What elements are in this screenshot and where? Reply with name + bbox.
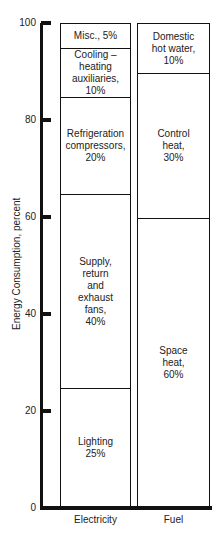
y-tick-label-60: 60 <box>4 211 36 223</box>
x-label-fuel: Fuel <box>137 514 210 526</box>
y-tick-label-0: 0 <box>4 502 36 514</box>
y-tick-100 <box>41 21 51 25</box>
segment-label: Space <box>159 345 187 357</box>
segment-label: Refrigeration <box>67 128 124 140</box>
y-tick-label-40: 40 <box>4 308 36 320</box>
segment-label: return <box>82 268 108 280</box>
segment-label: 40% <box>85 316 105 328</box>
y-tick-label-80: 80 <box>4 114 36 126</box>
segment-label: exhaust <box>78 292 113 304</box>
segment-label: heat, <box>162 357 184 369</box>
y-axis-line <box>40 23 43 510</box>
segment-label: Lighting <box>78 436 113 448</box>
y-tick-label-20: 20 <box>4 405 36 417</box>
segment-label: Cooling – <box>74 49 116 61</box>
y-tick-40 <box>41 312 51 316</box>
segment-refrigeration-compressors: Refrigeration compressors, 20% <box>61 97 130 194</box>
segment-label: auxiliaries, 10% <box>63 73 128 97</box>
segment-space-heat: Space heat, 60% <box>138 218 209 507</box>
y-tick-20 <box>41 409 51 413</box>
segment-misc: Misc., 5% <box>61 24 130 48</box>
segment-label: Domestic <box>153 31 195 43</box>
segment-label: 25% <box>85 448 105 460</box>
segment-label: 10% <box>163 55 183 67</box>
segment-label: Supply, <box>79 256 112 268</box>
segment-control-heat: Control heat, 30% <box>138 73 209 218</box>
electricity-column: Misc., 5% Cooling – heating auxiliaries,… <box>60 23 131 509</box>
y-tick-label-100: 100 <box>4 17 36 29</box>
segment-label: 30% <box>163 152 183 164</box>
y-tick-80 <box>41 118 51 122</box>
segment-label: and <box>87 280 104 292</box>
segment-label: compressors, <box>65 140 125 152</box>
x-label-electricity: Electricity <box>60 514 131 526</box>
segment-label: fans, <box>85 304 107 316</box>
fuel-column: Domestic hot water, 10% Control heat, 30… <box>137 23 210 509</box>
segment-cooling-heating-auxiliaries: Cooling – heating auxiliaries, 10% <box>61 48 130 97</box>
segment-label: Misc., 5% <box>74 30 117 42</box>
y-tick-60 <box>41 215 51 219</box>
segment-label: 20% <box>85 152 105 164</box>
segment-domestic-hot-water: Domestic hot water, 10% <box>138 24 209 73</box>
segment-label: heat, <box>162 140 184 152</box>
segment-label: heating <box>79 61 112 73</box>
segment-label: 60% <box>163 369 183 381</box>
segment-label: Control <box>157 128 189 140</box>
segment-lighting: Lighting 25% <box>61 388 130 507</box>
segment-label: hot water, <box>152 43 195 55</box>
segment-supply-return-exhaust-fans: Supply, return and exhaust fans, 40% <box>61 194 130 388</box>
